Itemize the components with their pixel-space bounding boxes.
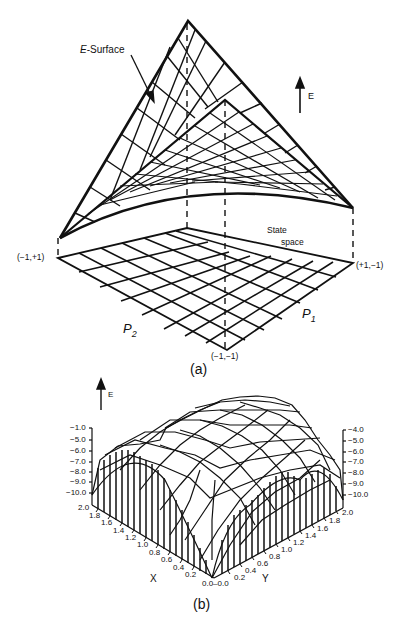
x-tick: 1.4: [113, 527, 124, 535]
y-tick: 0.2: [234, 574, 245, 582]
state-space-label-line2: space: [281, 238, 304, 247]
x-tick: 0.2: [185, 571, 196, 579]
z-tick-left: −1.0: [70, 424, 86, 432]
figure-a-drawing: [0, 0, 405, 625]
x-axis-label: X: [150, 574, 157, 584]
z-axis-left: [89, 428, 92, 505]
origin-label: 0.0–0.0: [202, 580, 229, 588]
caption-a: (a): [190, 362, 207, 376]
z-tick-right: −8.0: [348, 469, 364, 477]
z-tick-left: −6.0: [70, 447, 86, 455]
z-tick-left: −8.0: [70, 468, 86, 476]
e-surface-pointer: [131, 55, 154, 102]
energy-axis-label-b: E: [108, 391, 113, 399]
y-axis-label: Y: [262, 574, 269, 584]
y-tick: 2.0: [342, 509, 353, 517]
y-tick: 1.2: [293, 539, 304, 547]
x-tick: 1.8: [89, 512, 100, 520]
energy-axis-label-a: E: [308, 92, 314, 101]
y-tick: 0.4: [245, 567, 256, 575]
x-tick: 0.6: [161, 556, 172, 564]
axis-p1-label: P1: [302, 307, 316, 324]
y-tick: 0.6: [257, 560, 268, 568]
z-tick-right: −7.0: [348, 458, 364, 466]
z-tick-left: −7.0: [70, 458, 86, 466]
z-tick-left: −5.0: [70, 436, 86, 444]
y-axis-ticks: [228, 511, 338, 574]
corner-label-right: (+1,−1): [356, 261, 383, 270]
corner-label-left: (−1,+1): [17, 253, 44, 262]
z-tick-right: −9.0: [348, 480, 364, 488]
x-tick: 1.6: [101, 519, 112, 527]
x-tick: 1.2: [125, 534, 136, 542]
energy-arrow-b: [97, 379, 105, 410]
y-tick: 1.8: [329, 517, 340, 525]
energy-arrow-a: [296, 78, 304, 113]
state-space-label-line1: State: [267, 226, 287, 235]
y-tick: 1.0: [281, 546, 292, 554]
axis-p2-label: P2: [123, 322, 137, 339]
z-tick-right: −10.0: [348, 491, 368, 499]
e-surface-label: E-Surface: [80, 45, 124, 55]
y-tick: 1.4: [305, 532, 316, 540]
x-tick: 2.0: [78, 504, 89, 512]
z-tick-right: −5.0: [348, 437, 364, 445]
corner-label-front: (−1,−1): [211, 352, 238, 361]
z-tick-right: −6.0: [348, 448, 364, 456]
z-axis-right: [343, 430, 346, 508]
caption-b: (b): [193, 597, 210, 611]
state-space-grid: [58, 228, 353, 350]
z-tick-left: −9.0: [70, 478, 86, 486]
z-tick-right: −4.0: [348, 426, 364, 434]
y-tick: 0.8: [269, 553, 280, 561]
x-tick: 1.0: [137, 541, 148, 549]
z-tick-left: −10.0: [66, 489, 86, 497]
x-tick: 0.8: [149, 549, 160, 557]
y-tick: 1.6: [317, 525, 328, 533]
x-tick: 0.4: [173, 564, 184, 572]
